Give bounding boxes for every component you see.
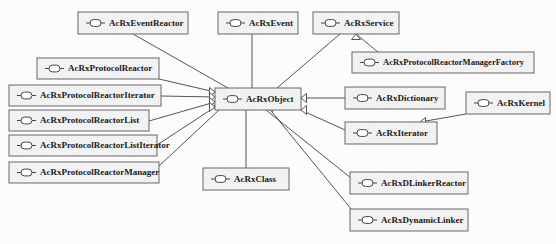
class-node-label: AcRxProtocolReactorListIterator — [40, 140, 170, 150]
class-node-acrxprotocolreactor[interactable]: AcRxProtocolReactor — [37, 58, 159, 79]
uml-class-diagram: AcRxEventReactorAcRxEventAcRxServiceAcRx… — [0, 0, 556, 244]
class-node-label: AcRxObject — [246, 94, 293, 104]
generalization-edge — [352, 34, 379, 52]
class-node-label: AcRxService — [344, 18, 393, 28]
class-node-label: AcRxProtocolReactorManager — [40, 167, 159, 177]
class-node-label: AcRxProtocolReactorList — [40, 115, 139, 125]
generalization-edge — [301, 106, 345, 131]
class-node-acrxclass[interactable]: AcRxClass — [203, 168, 289, 190]
class-node-label: AcRxProtocolReactorManagerFactory — [383, 57, 525, 67]
generalization-edge — [159, 79, 215, 97]
generalization-edge — [268, 107, 357, 216]
class-node-acrxevent[interactable]: AcRxEvent — [218, 12, 298, 34]
class-node-label: AcRxProtocolReactorIterator — [40, 90, 155, 100]
class-node-label: AcRxEventReactor — [109, 18, 183, 28]
generalization-edge — [273, 34, 341, 94]
class-node-acrxkernel[interactable]: AcRxKernel — [466, 92, 550, 114]
class-node-label: AcRxClass — [234, 174, 276, 184]
class-node-acrxdictionary[interactable]: AcRxDictionary — [345, 87, 445, 109]
generalization-edge — [159, 104, 222, 167]
class-node-acrxobject[interactable]: AcRxObject — [215, 88, 301, 110]
class-node-label: AcRxIterator — [376, 128, 428, 138]
class-node-label: AcRxDLinkerReactor — [381, 178, 466, 188]
class-node-label: AcRxKernel — [497, 98, 545, 108]
class-node-acrxprotocolreactormanagerfactory[interactable]: AcRxProtocolReactorManagerFactory — [352, 52, 534, 73]
generalization-edge — [248, 34, 257, 94]
class-node-acrxdynamiclinker[interactable]: AcRxDynamicLinker — [350, 209, 468, 231]
generalization-arrow — [301, 106, 307, 115]
class-node-label: AcRxProtocolReactor — [68, 63, 152, 73]
class-node-acrxprotocolreactormanager[interactable]: AcRxProtocolReactorManager — [9, 162, 159, 183]
generalization-arrow — [301, 94, 307, 103]
class-node-acrxeventreactor[interactable]: AcRxEventReactor — [78, 12, 188, 34]
class-node-acrxprotocolreactorlist[interactable]: AcRxProtocolReactorList — [9, 110, 149, 131]
class-node-acrxservice[interactable]: AcRxService — [313, 12, 399, 34]
class-node-acrxprotocolreactoriterator[interactable]: AcRxProtocolReactorIterator — [9, 85, 161, 106]
class-node-acrxdlinkerreactor[interactable]: AcRxDLinkerReactor — [350, 172, 468, 194]
class-node-label: AcRxEvent — [249, 18, 293, 28]
diagram-canvas: AcRxEventReactorAcRxEventAcRxServiceAcRx… — [0, 0, 556, 244]
generalization-edge — [242, 105, 251, 169]
generalization-edge — [301, 94, 345, 103]
class-node-acrxprotocolreactorlistiterator[interactable]: AcRxProtocolReactorListIterator — [9, 135, 170, 156]
generalization-edge — [157, 103, 215, 146]
class-node-acrxiterator[interactable]: AcRxIterator — [345, 122, 437, 144]
generalization-edge — [161, 93, 215, 102]
class-node-label: AcRxDynamicLinker — [381, 215, 464, 225]
class-node-label: AcRxDictionary — [376, 93, 439, 103]
